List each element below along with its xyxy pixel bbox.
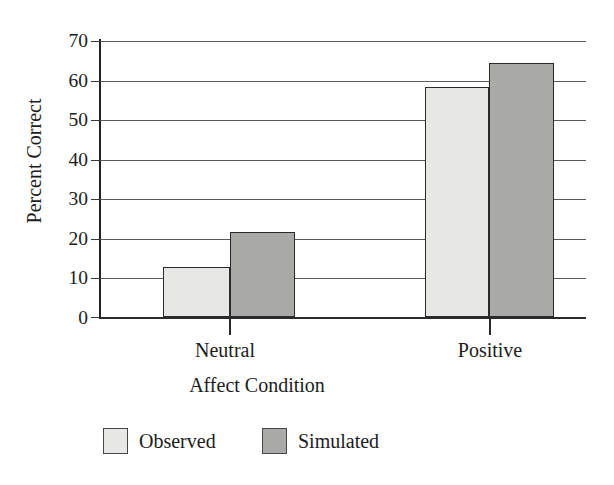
x-axis-title-wrap: Affect Condition [0, 374, 614, 396]
y-tick-label-0: 0 [44, 308, 88, 328]
bar-neutral-observed[interactable] [163, 267, 230, 317]
y-tick-label-40: 40 [44, 150, 88, 170]
legend-swatch-observed-icon [103, 428, 128, 454]
x-axis-title: Affect Condition [189, 374, 325, 396]
y-tick-label-60: 60 [44, 71, 88, 91]
y-tick-label-50: 50 [44, 110, 88, 130]
legend-label-observed: Observed [139, 430, 216, 452]
x-tick-mark-positive [489, 318, 491, 335]
legend-swatch-simulated-icon [262, 428, 287, 454]
y-axis-title: Percent Correct [23, 61, 45, 261]
bar-positive-observed[interactable] [425, 87, 489, 317]
y-tick-label-70: 70 [44, 31, 88, 51]
bar-neutral-simulated[interactable] [230, 232, 295, 317]
y-tick-label-20: 20 [44, 229, 88, 249]
legend-label-simulated: Simulated [298, 430, 379, 452]
x-tick-mark-neutral [229, 318, 231, 335]
plot-area [100, 41, 586, 317]
bar-positive-simulated[interactable] [489, 63, 554, 317]
bar-chart-figure: Percent Correct 70 60 50 40 30 20 10 0 N… [0, 0, 614, 485]
y-tick-label-10: 10 [44, 268, 88, 288]
x-category-label-neutral: Neutral [125, 339, 325, 361]
gridline-70 [100, 41, 586, 42]
x-category-label-positive: Positive [390, 339, 590, 361]
y-tick-label-30: 30 [44, 189, 88, 209]
axis-baseline-0 [100, 317, 586, 319]
legend-item-observed[interactable]: Observed [103, 424, 216, 458]
chart-legend: Observed Simulated [0, 424, 614, 464]
legend-item-simulated[interactable]: Simulated [262, 424, 379, 458]
